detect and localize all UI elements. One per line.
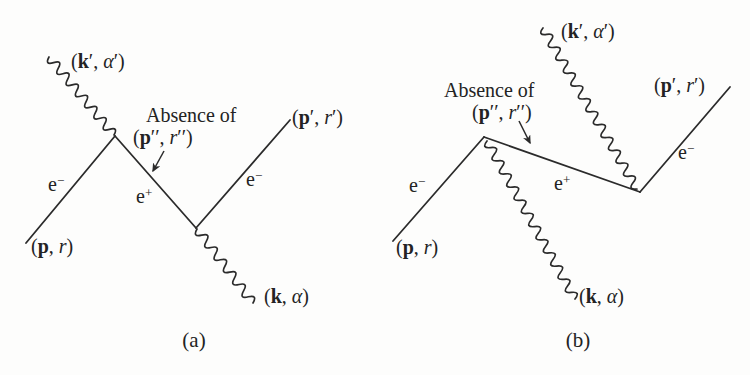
electron-out-label-a: e− (246, 168, 262, 190)
internal-positron-line-a (115, 136, 196, 228)
absence-pointer-arrow-b (519, 121, 530, 143)
outgoing-electron-line-b (640, 87, 730, 192)
diagram-b: (k′, α′) Absence of (p′′, r′′) e− (p, r)… (393, 20, 730, 352)
outgoing-photon-wavy-line-a (195, 229, 254, 303)
electron-in-momentum-label-b: (p, r) (396, 236, 438, 259)
absence-note-line1-b: Absence of (444, 79, 535, 101)
incoming-electron-line-b (393, 137, 484, 241)
absence-pointer-arrow-a (153, 151, 164, 171)
electron-in-momentum-label-a: (p, r) (31, 235, 73, 258)
photon-out-label-b: (k, α) (579, 285, 624, 308)
diagram-a: (k′, α′) Absence of (p′′, r′′) e− (p, r)… (26, 50, 343, 352)
photon-in-label-b: (k′, α′) (561, 20, 615, 43)
electron-in-label-b: e− (409, 174, 425, 196)
absence-note-line2-a: (p′′, r′′) (133, 126, 193, 149)
photon-out-label-a: (k, α) (264, 285, 309, 308)
absence-note-line2-b: (p′′, r′′) (472, 101, 532, 124)
absence-note-line1-a: Absence of (146, 104, 237, 126)
feynman-diagrams-figure: (k′, α′) Absence of (p′′, r′′) e− (p, r)… (0, 0, 750, 375)
electron-out-momentum-label-a: (p′, r′) (292, 106, 343, 129)
incoming-electron-line-a (26, 136, 115, 243)
outgoing-electron-line-a (196, 120, 290, 228)
positron-label-b: e+ (554, 172, 570, 194)
electron-out-momentum-label-b: (p′, r′) (654, 74, 705, 97)
electron-in-label-a: e− (48, 173, 64, 195)
figure-canvas: (k′, α′) Absence of (p′′, r′′) e− (p, r)… (0, 0, 750, 375)
caption-b: (b) (566, 328, 591, 352)
caption-a: (a) (182, 328, 205, 352)
photon-in-label-a: (k′, α′) (71, 50, 125, 73)
positron-label-a: e+ (136, 185, 152, 207)
electron-out-label-b: e− (678, 141, 694, 163)
incoming-photon-wavy-line-b (541, 28, 637, 189)
